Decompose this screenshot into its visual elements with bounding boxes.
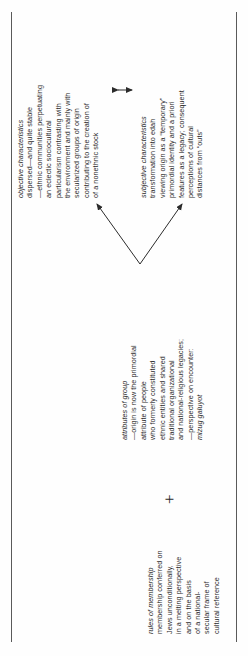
attributes-line-2: attribute of people xyxy=(139,339,148,440)
rules-line-7: cultural reference xyxy=(212,550,221,634)
rules-line-1: membership conferred on xyxy=(155,550,164,634)
subjective-line-6: distances from “outs” xyxy=(195,90,204,198)
subjective-line-3: primordial identity and a priori xyxy=(167,90,176,198)
figure-page: + rules of membership membership conferr… xyxy=(0,0,248,656)
diagram-canvas: + rules of membership membership conferr… xyxy=(0,0,248,656)
rules-line-3: in a melting perspective xyxy=(174,550,183,634)
objective-line-4: particularism contrasting with xyxy=(54,85,63,198)
attributes-line-3: who formerly constituted xyxy=(148,339,157,440)
attributes-term-mizug-galuyot: mizug galuyot xyxy=(195,339,204,440)
objective-heading: objective characteristics xyxy=(16,85,25,198)
objective-line-5: the environment and mainly with xyxy=(63,85,72,198)
objective-line-7: contributing to the creation of xyxy=(82,85,91,198)
objective-line-8: of a nonethnic stock xyxy=(91,85,100,198)
rules-line-5: of a national- xyxy=(193,550,202,634)
rules-heading: rules of membership xyxy=(146,550,155,634)
objective-line-3: an eclectic sociocultural xyxy=(44,85,53,198)
attributes-line-4: ethnic entities and shared xyxy=(158,339,167,440)
attributes-heading: attributes of group xyxy=(120,339,129,440)
block-objective-characteristics: objective characteristics dispersed—and … xyxy=(16,85,101,198)
objective-line-2: —ethnic communities perpetuating xyxy=(35,85,44,198)
subjective-line-2: viewing origin as a “temporary” xyxy=(158,90,167,198)
objective-line-6: secularized groups of origin xyxy=(72,85,81,198)
block-attributes-of-group: attributes of group —origin is now the p… xyxy=(120,339,205,440)
attributes-line-5: traditional organizational xyxy=(167,339,176,440)
block-subjective-characteristics: subjective characteristics transformatio… xyxy=(139,90,205,198)
plus-symbol: + xyxy=(161,494,178,504)
subjective-line-4: features as a legacy; consequent xyxy=(177,90,186,198)
attributes-line-1: —origin is now the primordial xyxy=(129,339,138,440)
subjective-heading: subjective characteristics xyxy=(139,90,148,198)
attributes-line-7: —perspective on encounter: xyxy=(186,339,195,440)
arrow-to-objective xyxy=(97,204,140,264)
subjective-line-5: perceptions of cultural xyxy=(186,90,195,198)
block-rules-of-membership: rules of membership membership conferred… xyxy=(146,550,221,634)
subjective-line-1: transformation into edah xyxy=(148,90,157,198)
rules-line-6: secular frame of xyxy=(202,550,211,634)
objective-line-1: dispersed—and quite stable xyxy=(25,85,34,198)
attributes-line-6: and national-religious legacies; xyxy=(176,339,185,440)
rules-line-2: Jews unconditionally, xyxy=(165,550,174,634)
rules-line-4: and on the basis xyxy=(184,550,193,634)
arrow-to-subjective xyxy=(140,204,182,264)
